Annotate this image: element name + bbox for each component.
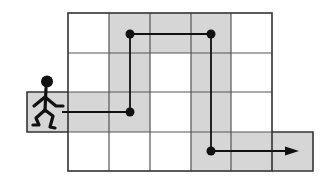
shaded-cell-r1c3 xyxy=(150,13,191,53)
turn-point-4 xyxy=(207,147,216,156)
turn-point-2 xyxy=(126,30,135,39)
grid-path-diagram xyxy=(0,0,331,183)
turn-point-1 xyxy=(126,108,135,117)
turn-point-3 xyxy=(207,30,216,39)
